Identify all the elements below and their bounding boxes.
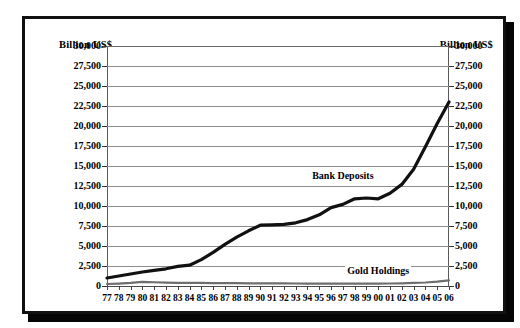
y-tick-mark-right [449, 186, 454, 187]
x-tick-label: 79 [126, 294, 136, 304]
series-label-gold-holdings: Gold Holdings [345, 265, 411, 276]
bank-deposits-line [107, 102, 449, 278]
y-tick-mark-right [449, 86, 454, 87]
x-tick-label: 80 [138, 294, 148, 304]
x-tick-mark [249, 286, 250, 290]
x-tick-mark [378, 286, 379, 290]
x-tick-label: 03 [409, 294, 419, 304]
y-tick-mark-right [449, 46, 454, 47]
x-tick-mark [166, 286, 167, 290]
x-tick-label: 01 [385, 294, 395, 304]
x-tick-mark [284, 286, 285, 290]
y-tick-label-left: 2,500 [79, 261, 102, 271]
x-tick-label: 92 [279, 294, 289, 304]
x-tick-mark [178, 286, 179, 290]
x-tick-label: 00 [373, 294, 383, 304]
x-tick-mark [390, 286, 391, 290]
y-tick-label-left: 15,000 [74, 161, 102, 171]
x-tick-mark [296, 286, 297, 290]
x-tick-mark [355, 286, 356, 290]
y-tick-label-right: 30,000 [455, 41, 483, 51]
series-lines [107, 46, 449, 286]
y-tick-mark-right [449, 206, 454, 207]
x-tick-mark [154, 286, 155, 290]
y-tick-mark-right [449, 146, 454, 147]
x-tick-label: 78 [114, 294, 124, 304]
x-tick-label: 81 [149, 294, 159, 304]
x-tick-label: 94 [303, 294, 313, 304]
y-tick-label-right: 7,500 [455, 221, 478, 231]
x-tick-label: 05 [432, 294, 442, 304]
y-tick-label-left: 22,500 [74, 101, 102, 111]
x-tick-label: 91 [267, 294, 277, 304]
x-tick-label: 95 [315, 294, 325, 304]
x-tick-mark [213, 286, 214, 290]
x-tick-mark [402, 286, 403, 290]
y-tick-label-left: 7,500 [79, 221, 102, 231]
y-tick-mark-right [449, 266, 454, 267]
y-tick-label-left: 27,500 [74, 61, 102, 71]
y-tick-mark-right [449, 226, 454, 227]
x-tick-label: 96 [326, 294, 336, 304]
x-tick-label: 04 [421, 294, 431, 304]
x-tick-label: 85 [197, 294, 207, 304]
y-tick-label-right: 17,500 [455, 141, 483, 151]
y-tick-mark-right [449, 106, 454, 107]
x-tick-label: 99 [362, 294, 372, 304]
x-tick-mark [237, 286, 238, 290]
x-tick-label: 93 [291, 294, 301, 304]
y-tick-label-right: 22,500 [455, 101, 483, 111]
x-tick-mark [119, 286, 120, 290]
y-tick-label-left: 20,000 [74, 121, 102, 131]
y-tick-label-right: 10,000 [455, 201, 483, 211]
y-tick-mark-right [449, 126, 454, 127]
x-tick-label: 98 [350, 294, 360, 304]
x-tick-label: 87 [220, 294, 230, 304]
plot-area: 30,00027,50025,00022,50020,00017,50015,0… [107, 46, 449, 286]
gridline [107, 286, 449, 287]
x-tick-label: 82 [161, 294, 171, 304]
x-tick-mark [425, 286, 426, 290]
y-tick-label-left: 30,000 [74, 41, 102, 51]
y-tick-mark-right [449, 246, 454, 247]
y-tick-mark-right [449, 66, 454, 67]
x-tick-label: 84 [185, 294, 195, 304]
y-tick-label-right: 2,500 [455, 261, 478, 271]
y-tick-label-left: 0 [96, 281, 101, 291]
x-tick-mark [142, 286, 143, 290]
x-tick-mark [225, 286, 226, 290]
y-tick-label-right: 15,000 [455, 161, 483, 171]
y-tick-label-right: 20,000 [455, 121, 483, 131]
y-tick-label-right: 12,500 [455, 181, 483, 191]
x-tick-mark [449, 286, 450, 290]
x-tick-mark [307, 286, 308, 290]
y-tick-label-right: 5,000 [455, 241, 478, 251]
y-tick-label-right: 0 [455, 281, 460, 291]
x-tick-label: 06 [444, 294, 454, 304]
x-tick-label: 90 [256, 294, 266, 304]
series-label-bank-deposits: Bank Deposits [310, 170, 375, 181]
x-tick-mark [131, 286, 132, 290]
x-tick-mark [366, 286, 367, 290]
x-tick-label: 02 [397, 294, 407, 304]
x-tick-label: 77 [102, 294, 112, 304]
x-tick-mark [190, 286, 191, 290]
x-tick-mark [260, 286, 261, 290]
x-tick-mark [272, 286, 273, 290]
y-tick-label-left: 25,000 [74, 81, 102, 91]
x-tick-mark [319, 286, 320, 290]
x-tick-label: 88 [232, 294, 242, 304]
chart-frame: Billion US$ Billion US$ 30,00027,50025,0… [22, 16, 506, 314]
chart-screenshot: Billion US$ Billion US$ 30,00027,50025,0… [0, 0, 520, 328]
x-tick-mark [201, 286, 202, 290]
x-tick-mark [343, 286, 344, 290]
x-tick-label: 97 [338, 294, 348, 304]
y-tick-label-right: 27,500 [455, 61, 483, 71]
y-tick-label-left: 17,500 [74, 141, 102, 151]
x-tick-mark [107, 286, 108, 290]
x-tick-label: 89 [244, 294, 254, 304]
x-tick-mark [437, 286, 438, 290]
y-tick-label-left: 12,500 [74, 181, 102, 191]
gold-holdings-line [107, 280, 449, 284]
x-tick-label: 83 [173, 294, 183, 304]
